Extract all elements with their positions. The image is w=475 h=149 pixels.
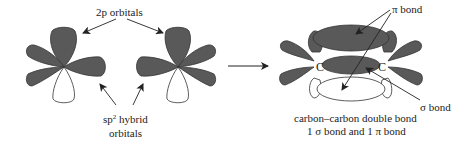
arrow-to-right-p-orbital [127, 19, 163, 33]
carbon-right-label: C [378, 60, 386, 74]
sp2-lobe-left [137, 57, 179, 76]
sp2-lobe-right [64, 57, 105, 76]
arrow-to-right-sp2-lobe [133, 84, 143, 105]
carbon-right-atom [137, 27, 216, 103]
pi-bond-top-lobe [313, 25, 389, 51]
sp2-lobe-outer-right-lower [388, 67, 422, 85]
sp2-lobe-outer-left-lower [280, 67, 314, 85]
sp2-hybrid-label: sp2 hybrid [103, 113, 148, 125]
pi-bond-bottom-lobe [317, 77, 385, 101]
pi-bond-label: π bond [392, 3, 423, 15]
carbon-left-atom [26, 27, 105, 103]
carbon-left-label: C [316, 60, 324, 74]
p-orbitals-label: 2p orbitals [96, 6, 143, 18]
sigma-bond-label: σ bond [420, 101, 451, 113]
caption-line-1: carbon–carbon double bond [294, 112, 417, 124]
arrow-to-left-p-orbital [83, 19, 116, 33]
sp2-orbitals-label: orbitals [109, 127, 142, 139]
orbital-diagram: 2p orbitals sp2 hybrid orbitals C C π bo… [0, 0, 475, 149]
p-orbital-lobe-down [167, 67, 189, 103]
caption-line-2: 1 σ bond and 1 π bond [307, 125, 406, 137]
ethylene-double-bond: C C [280, 25, 423, 101]
arrow-to-left-sp2-lobe [100, 84, 116, 105]
